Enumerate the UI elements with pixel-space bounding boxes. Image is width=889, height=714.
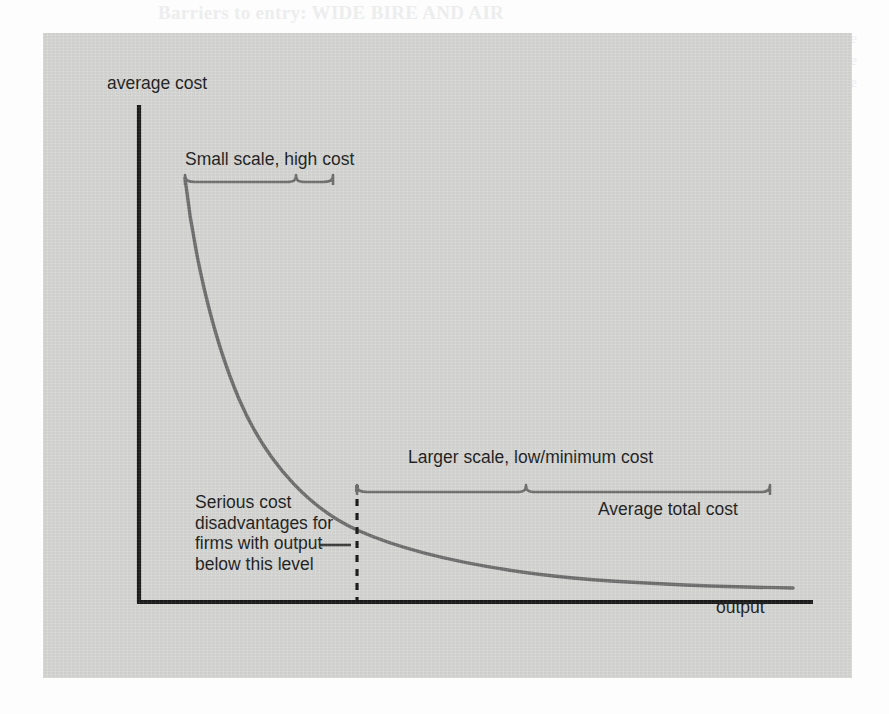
scanned-textbook-page: Barriers to entry: WIDE BIRE AND AIR the… <box>0 0 889 714</box>
annotation-serious-cost-line-2: disadvantages for <box>195 513 333 534</box>
annotation-curve-label: Average total cost <box>598 499 738 520</box>
annotation-serious-cost-line-4: below this level <box>195 554 333 575</box>
annotation-large-scale: Larger scale, low/minimum cost <box>408 447 653 468</box>
small-scale-brace <box>185 175 333 185</box>
average-cost-curve-chart <box>43 33 852 678</box>
x-axis-label: output <box>716 597 765 618</box>
figure-panel: average cost output Small scale, high co… <box>43 33 852 678</box>
y-axis-label: average cost <box>107 73 207 94</box>
annotation-serious-cost-line-1: Serious cost <box>195 492 333 513</box>
large-scale-brace <box>357 485 770 495</box>
annotation-serious-cost: Serious cost disadvantages for firms wit… <box>195 492 333 575</box>
annotation-serious-cost-line-3: firms with output <box>195 533 333 554</box>
bleed-text-top-title: Barriers to entry: WIDE BIRE AND AIR <box>158 2 504 24</box>
annotation-small-scale: Small scale, high cost <box>185 149 354 170</box>
